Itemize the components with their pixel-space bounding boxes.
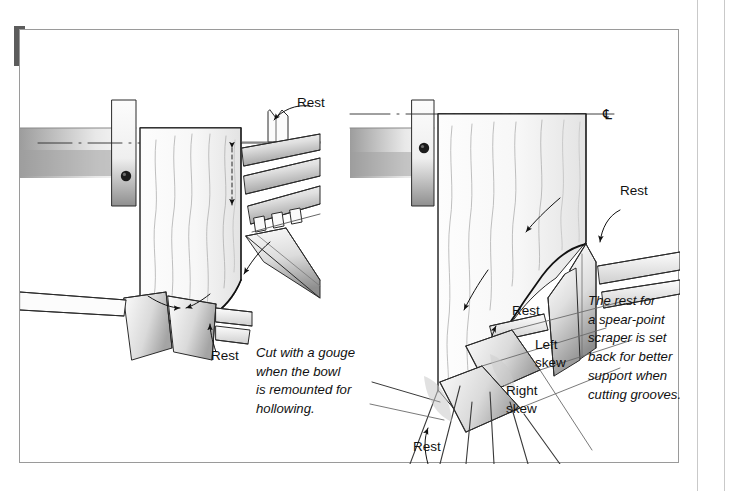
label-rest-left-top: Rest <box>297 94 325 112</box>
label-rest-right-middle: Rest <box>512 302 540 320</box>
label-right-skew-line-2: skew <box>506 400 538 418</box>
left-diagram-group <box>20 100 320 360</box>
caption-spear-line-1: The rest for <box>588 292 688 311</box>
page-rule-right-inner <box>697 0 698 491</box>
caption-spear-point: The rest for a spear-point scraper is se… <box>588 292 688 404</box>
label-left-skew-line-2: skew <box>535 354 566 372</box>
caption-spear-line-5: support when <box>588 367 688 386</box>
illustration-page: SCRAPERS USED FLAT ON PROFILES <box>0 0 732 491</box>
caption-gouge: Cut with a gouge when the bowl is remoun… <box>256 344 376 419</box>
caption-gouge-line-1: Cut with a gouge <box>256 344 376 363</box>
caption-spear-line-3: scraper is set <box>588 329 688 348</box>
label-rest-right-bottom: Rest <box>413 438 441 456</box>
label-rest-left-bottom: Rest <box>211 347 239 365</box>
caption-spear-line-6: cutting grooves. <box>588 386 688 405</box>
caption-spear-line-2: a spear-point <box>588 311 688 330</box>
figure-frame: Rest Rest Cut with a gouge when the bowl… <box>19 29 679 463</box>
caption-gouge-line-4: hollowing. <box>256 400 376 419</box>
label-left-skew-line-1: Left <box>535 336 566 354</box>
caption-gouge-line-2: when the bowl <box>256 363 376 382</box>
label-left-skew: Left skew <box>535 336 566 372</box>
label-rest-right-top: Rest <box>620 182 648 200</box>
centerline-symbol: ℄ <box>603 106 611 122</box>
caption-spear-line-4: back for better <box>588 348 688 367</box>
label-right-skew-line-1: Right <box>506 382 538 400</box>
page-rule-right-outer <box>724 0 725 491</box>
caption-gouge-line-3: is remounted for <box>256 381 376 400</box>
label-right-skew: Right skew <box>506 382 538 418</box>
